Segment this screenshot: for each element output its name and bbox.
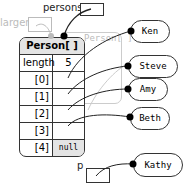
reference-arrows	[0, 0, 187, 186]
